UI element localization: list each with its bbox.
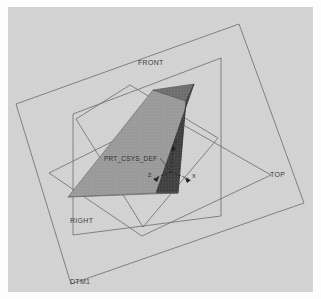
datum-label-right[interactable]: RIGHT	[70, 217, 94, 224]
datum-label-top[interactable]: TOP	[270, 171, 285, 178]
axis-label-y: Y	[174, 139, 178, 145]
datum-label-dtm1[interactable]: DTM1	[70, 278, 90, 285]
model-scene: Y X Z FRONT TOP RIGHT DTM1 PRT_CSYS_DEF	[8, 7, 313, 292]
graphics-window[interactable]: Y X Z FRONT TOP RIGHT DTM1 PRT_CSYS_DEF	[8, 7, 313, 292]
datum-label-front[interactable]: FRONT	[138, 59, 164, 66]
cad-viewport[interactable]: Y X Z FRONT TOP RIGHT DTM1 PRT_CSYS_DEF	[0, 0, 321, 299]
csys-label[interactable]: PRT_CSYS_DEF	[104, 155, 157, 163]
axis-label-x: X	[192, 173, 196, 179]
